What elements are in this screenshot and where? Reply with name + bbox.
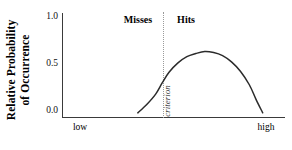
y-tick-mid-label: 0.5 — [34, 58, 58, 68]
y-axis-title-line-1: Relative Probability — [4, 20, 18, 121]
criterion-label: criterion — [161, 75, 173, 127]
y-tick-bottom-label: 0.0 — [34, 105, 58, 115]
misses-label: Misses — [116, 14, 160, 26]
hits-label: Hits — [170, 14, 202, 26]
x-axis-low-label: low — [62, 122, 98, 133]
y-axis-title-line-2: of Occurrence — [18, 35, 32, 106]
y-tick-top-label: 1.0 — [34, 11, 58, 21]
curve-path — [138, 51, 263, 112]
x-axis-line — [62, 117, 285, 118]
x-axis-high-label: high — [248, 122, 284, 133]
y-axis-line — [62, 13, 63, 118]
y-axis-title: Relative Probability of Occurrence — [0, 11, 36, 129]
signal-detection-chart: Relative Probability of Occurrence 1.0 0… — [0, 0, 292, 150]
